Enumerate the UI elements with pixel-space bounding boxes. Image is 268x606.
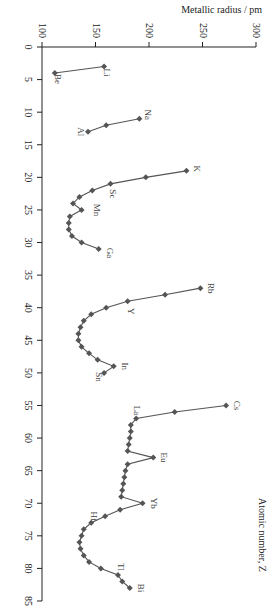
element-label: K <box>192 166 202 173</box>
z-tick-label: 65 <box>23 466 34 476</box>
z-tick-label: 5 <box>23 77 34 82</box>
z-tick-label: 10 <box>23 107 34 117</box>
series-line <box>88 119 139 132</box>
element-label: La <box>132 406 142 416</box>
element-label: Ga <box>105 248 115 259</box>
element-label: Yb <box>149 498 159 509</box>
z-tick-label: 75 <box>23 531 34 541</box>
data-point-marker <box>66 226 72 232</box>
data-point-marker <box>98 565 104 571</box>
data-point-marker <box>125 448 131 454</box>
data-point-marker <box>66 220 72 226</box>
z-tick-label: 15 <box>23 140 34 150</box>
z-tick-label: 55 <box>23 400 34 410</box>
series-line <box>69 171 187 249</box>
radius-tick-label: 150 <box>91 23 102 38</box>
element-label: Li <box>102 69 112 77</box>
data-point-marker <box>69 233 75 239</box>
data-point-marker <box>67 213 73 219</box>
axes: 1001502002503000510152025303540455055606… <box>23 23 262 606</box>
element-label: Be <box>53 74 63 84</box>
element-label: Mn <box>92 204 102 217</box>
data-point-marker <box>103 122 109 128</box>
series-line <box>55 67 104 74</box>
radius-tick-label: 100 <box>37 23 48 38</box>
data-point-marker <box>128 429 134 435</box>
z-tick-label: 60 <box>23 433 34 443</box>
element-label: Rb <box>206 283 216 294</box>
data-point-marker <box>111 363 117 369</box>
element-label: Bi <box>136 584 146 593</box>
data-point-marker <box>118 494 124 500</box>
z-tick-label: 80 <box>23 563 34 573</box>
element-label: Sc <box>108 189 118 198</box>
radius-tick-label: 250 <box>198 23 209 38</box>
element-label: Y <box>126 308 136 315</box>
data-point-marker <box>126 442 132 448</box>
element-label: Tl <box>116 563 126 571</box>
series-line <box>79 405 226 587</box>
data-point-marker <box>75 337 81 343</box>
z-tick-label: 25 <box>23 205 34 215</box>
data-point-marker <box>121 474 127 480</box>
data-point-marker <box>136 116 142 122</box>
element-label: Eu <box>159 453 169 463</box>
data-point-marker <box>150 455 156 461</box>
data-point-marker <box>122 468 128 474</box>
element-label: Sn <box>94 372 104 382</box>
z-tick-label: 35 <box>23 270 34 280</box>
data-point-marker <box>75 331 81 337</box>
data-point-marker <box>78 324 84 330</box>
data-point-marker <box>107 181 113 187</box>
data-point-marker <box>103 305 109 311</box>
data-point-marker <box>162 292 168 298</box>
z-tick-label: 30 <box>23 238 34 248</box>
data-point-marker <box>78 546 84 552</box>
data-point-marker <box>119 487 125 493</box>
element-label: In <box>120 363 130 371</box>
metallic-radius-chart: 1001502002503000510152025303540455055606… <box>0 0 268 606</box>
radius-tick-label: 300 <box>251 23 262 38</box>
z-tick-label: 85 <box>23 596 34 606</box>
data-point-marker <box>183 168 189 174</box>
data-point-marker <box>115 572 121 578</box>
data-point-marker <box>89 187 95 193</box>
data-point-marker <box>125 298 131 304</box>
data-point-marker <box>76 539 82 545</box>
radius-axis-title: Metallic radius / pm <box>181 4 262 15</box>
z-tick-label: 0 <box>23 45 34 50</box>
z-tick-label: 40 <box>23 303 34 313</box>
data-point-marker <box>79 240 85 246</box>
element-label: Al <box>76 127 86 136</box>
data-point-marker <box>125 461 131 467</box>
element-label: Na <box>143 109 153 120</box>
data-series <box>52 64 229 591</box>
data-point-marker <box>223 402 229 408</box>
z-tick-label: 45 <box>23 335 34 345</box>
z-tick-label: 50 <box>23 368 34 378</box>
data-point-marker <box>127 435 133 441</box>
element-label: Hf <box>89 512 99 522</box>
z-tick-label: 20 <box>23 172 34 182</box>
data-point-marker <box>102 513 108 519</box>
element-label: Cs <box>232 401 242 411</box>
data-point-marker <box>96 246 102 252</box>
data-point-marker <box>172 409 178 415</box>
data-point-marker <box>140 500 146 506</box>
data-point-marker <box>143 174 149 180</box>
data-point-marker <box>197 285 203 291</box>
data-point-marker <box>117 507 123 513</box>
data-point-marker <box>120 481 126 487</box>
radius-tick-label: 200 <box>144 23 155 38</box>
z-axis-title: Atomic number, Z <box>257 498 268 572</box>
element-labels: LiBeNaAlKScMnGaRbYInSnCsLaEuYbHfTlBi <box>53 69 242 593</box>
z-tick-label: 70 <box>23 498 34 508</box>
data-point-marker <box>79 533 85 539</box>
